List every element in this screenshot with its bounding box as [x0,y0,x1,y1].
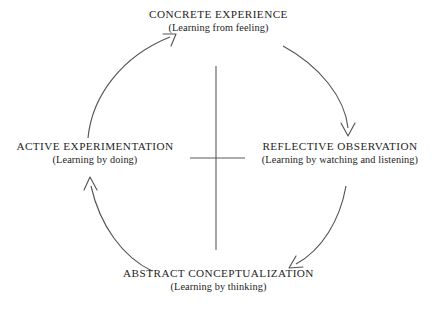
arrow-abstract-to-active-arc [91,186,152,271]
arrow-active-to-concrete [88,34,176,138]
arrow-active-to-concrete-arc [88,37,170,138]
node-abstract-conceptualization-title: ABSTRACT CONCEPTUALIZATION [0,267,437,280]
arrow-reflective-to-abstract [289,186,346,268]
arrow-active-to-concrete-arrowhead [163,34,176,46]
node-active-experimentation-subtitle: (Learning by doing) [2,154,188,166]
arrow-reflective-to-abstract-arc [296,186,346,264]
node-concrete-experience: CONCRETE EXPERIENCE (Learning from feeli… [0,8,437,34]
arrow-abstract-to-active-arrowhead [84,177,97,190]
node-reflective-observation-subtitle: (Learning by watching and listening) [245,154,435,166]
node-concrete-experience-subtitle: (Learning from feeling) [0,22,437,34]
node-active-experimentation: ACTIVE EXPERIMENTATION (Learning by doin… [2,140,188,166]
node-abstract-conceptualization: ABSTRACT CONCEPTUALIZATION (Learning by … [0,267,437,293]
arrow-concrete-to-reflective-arc [283,46,348,128]
node-active-experimentation-title: ACTIVE EXPERIMENTATION [2,140,188,153]
node-abstract-conceptualization-subtitle: (Learning by thinking) [0,281,437,293]
arrow-concrete-to-reflective [283,46,355,136]
node-concrete-experience-title: CONCRETE EXPERIENCE [0,8,437,21]
node-reflective-observation-title: REFLECTIVE OBSERVATION [245,140,435,153]
center-cross [190,66,245,250]
node-reflective-observation: REFLECTIVE OBSERVATION (Learning by watc… [245,140,435,166]
diagram-canvas: CONCRETE EXPERIENCE (Learning from feeli… [0,0,437,315]
arrow-abstract-to-active [84,177,152,271]
